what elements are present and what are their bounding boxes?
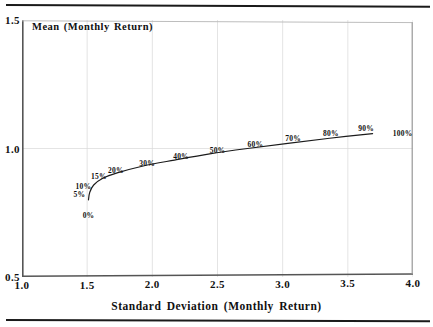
data-point-label: 40% <box>173 152 189 161</box>
x-tick-label: 2.0 <box>132 278 172 290</box>
data-point-label: 50% <box>210 145 226 154</box>
x-tick-label: 3.5 <box>328 277 368 289</box>
x-tick-label: 1.0 <box>2 279 42 291</box>
data-point-label: 90% <box>358 123 374 132</box>
bottom-divider-rule <box>6 319 430 322</box>
x-tick-label: 3.0 <box>263 278 303 290</box>
data-point-label: 0% <box>83 210 95 219</box>
data-point-label: 10% <box>75 181 91 190</box>
x-tick-label: 4.0 <box>393 277 433 289</box>
data-point-label: 20% <box>108 166 124 175</box>
data-point-label: 70% <box>285 134 301 143</box>
data-point-label: 5% <box>73 190 85 199</box>
x-tick-label: 2.5 <box>198 278 238 290</box>
y-tick-label: 1.5 <box>0 14 20 26</box>
y-axis-title: Mean (Monthly Return) <box>32 21 153 32</box>
data-point-label: 100% <box>393 129 413 138</box>
figure: Mean (Monthly Return) Standard Deviation… <box>0 0 433 327</box>
data-point-label: 80% <box>323 129 339 138</box>
top-divider-rule <box>6 4 430 8</box>
data-point-label: 60% <box>247 139 263 148</box>
data-point-label: 15% <box>91 172 107 181</box>
y-tick-label: 1.0 <box>0 143 20 155</box>
x-axis-title: Standard Deviation (Monthly Return) <box>0 300 433 312</box>
x-tick-label: 1.5 <box>67 279 107 291</box>
data-point-label: 30% <box>139 158 155 167</box>
frontier-curve <box>88 134 372 200</box>
